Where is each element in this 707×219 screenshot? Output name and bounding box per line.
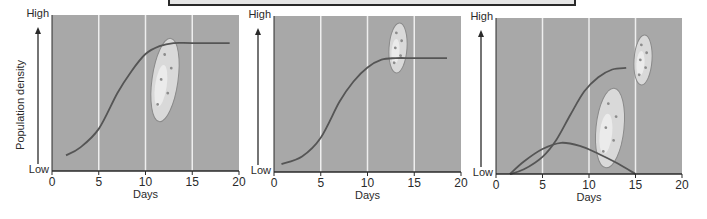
x-axis-label: Days (133, 188, 159, 200)
x-tick-label: 5 (95, 175, 102, 189)
x-tick-label: 0 (271, 176, 278, 190)
x-tick-label: 20 (454, 176, 468, 190)
x-tick-label: 0 (49, 175, 56, 189)
x-tick-label: 20 (232, 175, 246, 189)
y-high-label: High (248, 8, 271, 20)
y-low-label: Low (473, 166, 493, 178)
x-tick-label: 5 (317, 176, 324, 190)
x-tick-label: 15 (186, 175, 200, 189)
x-tick-label: 15 (408, 176, 422, 190)
x-tick-label: 20 (675, 178, 689, 192)
x-tick-label: 0 (493, 178, 500, 192)
charts-canvas: Population density 05101520DaysHighLow 0… (0, 0, 707, 219)
arrow-up-icon (478, 30, 484, 167)
x-tick-label: 5 (539, 178, 546, 192)
y-high-label: High (26, 7, 49, 19)
chart-panel-3: 05101520DaysHighLow (470, 10, 689, 203)
arrow-up-icon (255, 28, 261, 165)
x-axis-label: Days (576, 191, 602, 203)
y-low-label: Low (251, 164, 271, 176)
y-axis-label: Population density (14, 60, 26, 150)
chart-panel-1: 05101520DaysHighLow (26, 7, 246, 200)
y-high-label: High (470, 10, 493, 22)
x-tick-label: 10 (361, 176, 375, 190)
arrow-up-icon (35, 27, 41, 164)
x-tick-label: 10 (139, 175, 153, 189)
chart-panel-2: 05101520DaysHighLow (248, 8, 468, 201)
x-tick-label: 10 (582, 178, 596, 192)
y-low-label: Low (29, 163, 49, 175)
x-axis-label: Days (355, 189, 381, 201)
x-tick-label: 15 (629, 178, 643, 192)
